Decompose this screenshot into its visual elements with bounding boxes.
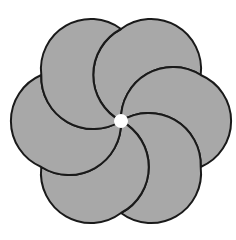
center-hole [114, 114, 128, 128]
rosette-figure [0, 0, 236, 240]
